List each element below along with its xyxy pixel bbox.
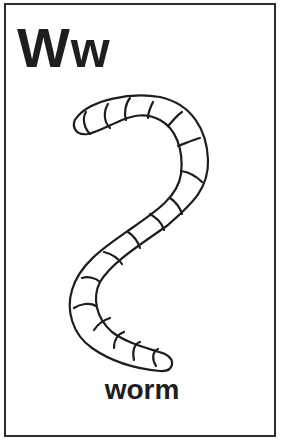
worm-segment <box>84 112 90 134</box>
worm-segment <box>168 112 182 126</box>
worm-outer-outline <box>70 96 208 372</box>
worm-segment <box>181 171 202 182</box>
worm-segment <box>104 252 122 264</box>
worm-segment <box>150 214 164 230</box>
worm-segment <box>178 138 200 146</box>
worm-segment <box>105 104 110 128</box>
worm-segment <box>74 304 96 308</box>
worm-segment <box>82 277 100 282</box>
worm-segment <box>128 232 140 248</box>
worm-segment <box>170 198 182 214</box>
card-word: worm <box>0 374 284 406</box>
